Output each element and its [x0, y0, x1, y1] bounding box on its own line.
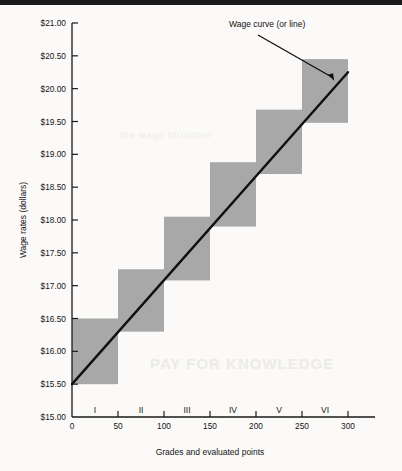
- y-tick-label: $16.00: [41, 346, 67, 356]
- wage-curve-chart: $15.00$15.50$16.00$16.50$17.00$17.50$18.…: [0, 0, 402, 471]
- y-tick-label: $18.00: [41, 215, 67, 225]
- x-tick-label: 50: [113, 421, 123, 431]
- y-tick-label: $17.00: [41, 281, 67, 291]
- wage-curve-annotation-label: Wage curve (or line): [229, 19, 305, 29]
- y-tick-label: $19.50: [41, 117, 67, 127]
- grade-label-v: V: [276, 405, 282, 415]
- x-tick-label: 200: [249, 421, 263, 431]
- x-tick-group: 050100150200250300: [70, 411, 356, 431]
- wage-band-iv: [210, 162, 256, 226]
- y-tick-label: $15.00: [41, 412, 67, 422]
- grade-label-ii: II: [139, 405, 144, 415]
- grade-tick-group: IIIIIIIVVVI: [94, 405, 329, 415]
- grade-label-iii: III: [183, 405, 190, 415]
- annotation-arrow-shaft: [258, 35, 331, 77]
- y-axis-title: Wage rates (dollars): [18, 182, 28, 258]
- chart-page: PAY FOR KNOWLEDGE the wage structure $15…: [0, 0, 402, 471]
- x-tick-label: 100: [157, 421, 171, 431]
- grade-label-vi: VI: [321, 405, 329, 415]
- wage-line-group: [72, 72, 348, 384]
- wage-band-i: [72, 319, 118, 385]
- x-tick-label: 0: [70, 421, 75, 431]
- y-tick-label: $20.00: [41, 84, 67, 94]
- x-tick-label: 150: [203, 421, 217, 431]
- y-tick-label: $16.50: [41, 314, 67, 324]
- grade-label-iv: IV: [229, 405, 237, 415]
- wage-band-vi: [302, 59, 348, 123]
- wage-band-v: [256, 110, 302, 174]
- y-tick-label: $15.50: [41, 379, 67, 389]
- y-tick-label: $21.00: [41, 18, 67, 28]
- wage-band-ii: [118, 269, 164, 331]
- grade-label-i: I: [94, 405, 96, 415]
- wage-band-group: [72, 59, 348, 384]
- y-tick-label: $18.50: [41, 182, 67, 192]
- x-axis-title: Grades and evaluated points: [156, 447, 265, 457]
- y-tick-label: $19.00: [41, 149, 67, 159]
- x-tick-label: 250: [295, 421, 309, 431]
- y-tick-label: $17.50: [41, 248, 67, 258]
- x-tick-label: 300: [341, 421, 355, 431]
- y-tick-label: $20.50: [41, 51, 67, 61]
- wage-curve-line: [72, 72, 348, 384]
